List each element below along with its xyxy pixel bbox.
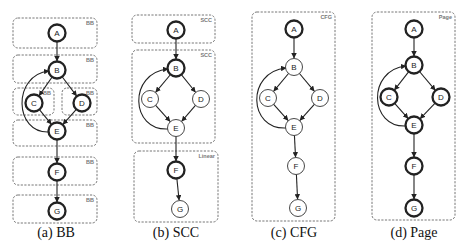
svg-text:F: F [294,162,299,171]
node-g-panel-c: G [290,200,307,217]
svg-text:E: E [54,127,59,136]
control-flow-diagram: BBBBBBBBBBBBBBSCCSCCLinearCFGPage ABCDEF… [0,0,464,251]
node-d-panel-b: D [193,91,210,108]
svg-text:D: D [79,99,85,108]
svg-text:A: A [411,25,417,34]
edge-D-E [63,109,76,124]
node-g-panel-d: G [406,200,423,217]
edge-C-E [39,110,51,124]
edge-C-E [395,103,408,118]
node-d-panel-d: D [433,89,450,106]
region-label: BB [86,122,94,128]
node-c-panel-b: C [142,91,159,108]
edge-F-G [177,178,179,200]
node-e-panel-b: E [168,120,185,137]
edge-B-C [274,74,289,92]
node-b-panel-d: B [406,57,423,74]
caption-panel-c: (c) CFG [271,225,317,241]
svg-text:G: G [177,205,183,214]
svg-text:B: B [173,64,178,73]
svg-text:C: C [31,99,37,108]
node-d-panel-c: D [312,90,329,107]
node-b-panel-c: B [286,59,303,76]
svg-text:C: C [265,94,271,103]
svg-text:F: F [55,168,60,177]
svg-text:E: E [291,123,296,132]
node-f-panel-a: F [49,164,66,181]
svg-text:D: D [198,95,204,104]
svg-text:D: D [317,94,323,103]
node-a-panel-d: A [406,21,423,38]
edge-B-D [181,75,195,92]
region-label: BB [86,159,94,165]
edge-B-D [299,74,314,92]
node-a-panel-c: A [286,21,303,38]
node-c-panel-c: C [260,90,277,107]
node-a-panel-a: A [49,25,66,42]
svg-text:C: C [386,93,392,102]
caption-panel-b: (b) SCC [153,225,199,241]
svg-text:D: D [438,93,444,102]
caption-panel-a: (a) BB [37,225,75,241]
edge-B-D [419,71,435,90]
region-label: BB [86,57,94,63]
edge-D-E [300,104,314,120]
node-e-panel-c: E [286,119,303,136]
region-label: CFG [320,14,332,20]
node-g-panel-b: G [172,201,189,218]
svg-text:G: G [411,204,417,213]
svg-text:F: F [174,166,179,175]
node-f-panel-b: F [168,162,185,179]
region-label: SCC [200,17,212,23]
svg-text:E: E [411,121,416,130]
edge-E-F [294,135,295,157]
node-d-panel-a: D [74,95,91,112]
node-b-panel-b: B [168,60,185,77]
svg-text:B: B [411,61,416,70]
svg-text:A: A [54,29,60,38]
svg-text:C: C [147,95,153,104]
caption-panel-d: (d) Page [390,225,437,241]
edge-C-E [156,105,170,121]
edge-B-C [156,75,171,93]
node-c-panel-a: C [26,95,43,112]
region-label: BB [43,90,51,96]
svg-text:A: A [291,25,297,34]
node-a-panel-b: A [168,22,185,39]
edge-F-G [296,174,297,199]
region-label: SCC [200,52,212,58]
svg-text:G: G [295,204,301,213]
node-f-panel-d: F [406,158,423,175]
svg-text:F: F [412,162,417,171]
node-f-panel-c: F [288,158,305,175]
region-label: Page [439,14,452,20]
node-c-panel-d: C [381,89,398,106]
node-b-panel-a: B [49,62,66,79]
region-label: Linear [198,153,215,159]
region-label: BB [86,20,94,26]
region-label: BB [86,197,94,203]
svg-text:G: G [54,207,60,216]
svg-text:A: A [173,26,179,35]
node-g-panel-a: G [49,203,66,220]
svg-text:E: E [173,124,178,133]
svg-text:B: B [54,66,59,75]
svg-text:B: B [291,63,296,72]
node-e-panel-d: E [406,117,423,134]
edge-D-E [420,103,435,118]
edge-B-D [62,77,76,96]
node-e-panel-a: E [49,123,66,140]
edge-B-C [395,72,409,90]
edge-D-E [182,105,196,121]
edge-C-E [274,104,288,120]
